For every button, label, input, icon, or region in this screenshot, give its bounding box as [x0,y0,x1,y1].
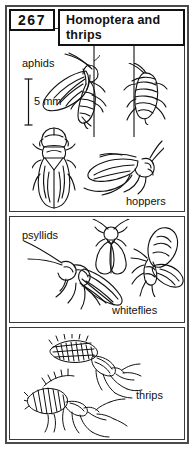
leafhopper-dorsal-view-figure [32,126,76,210]
label-aphids: aphids [22,58,54,69]
page-title: Homoptera and thrips [66,13,183,43]
scale-bar-figure [23,77,34,127]
label-whiteflies: whiteflies [112,305,157,316]
panel-aphids-hoppers [9,28,185,212]
header-title-box: Homoptera and thrips [58,9,185,46]
psyllid-dorsal-view-figure [88,219,134,279]
label-psyllids: psyllids [22,230,58,241]
label-thrips: thrips [136,390,163,401]
whitefly-dorsal-view-figure [126,225,185,297]
psyllid-lateral-view-figure [18,239,128,311]
page-number-box: 267 [9,9,55,31]
wingless-aphid-on-stem-figure [122,63,170,125]
label-hoppers: hoppers [126,196,166,207]
panel-thrips [9,327,185,440]
scale-bar-label: 5 mm [34,96,62,107]
field-guide-page: 267 Homoptera and thrips aphids 5 mm hop… [0,0,194,449]
page-number: 267 [18,13,46,27]
thrips-lower-view-figure [24,364,128,438]
leafhopper-lateral-view-figure [72,129,164,203]
